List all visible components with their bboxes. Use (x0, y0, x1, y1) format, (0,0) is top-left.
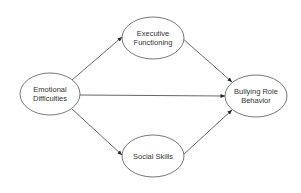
node-bullying: Bullying RoleBehavior (225, 75, 287, 117)
arrow-emotional-to-executive (72, 37, 122, 80)
node-label: Executive (137, 29, 170, 38)
node-label: Functioning (134, 38, 173, 47)
arrow-emotional-to-bullying (80, 95, 225, 96)
node-label: Social Skills (133, 152, 173, 161)
node-label: Bullying Role (234, 87, 278, 96)
node-label: Emotional (33, 85, 67, 94)
arrow-emotional-to-social (72, 109, 122, 155)
node-emotional: EmotionalDifficulties (20, 73, 80, 115)
path-diagram: EmotionalDifficultiesExecutiveFunctionin… (0, 0, 301, 193)
arrow-social-to-bullying (183, 110, 232, 155)
node-social: Social Skills (122, 135, 184, 177)
node-executive: ExecutiveFunctioning (122, 17, 184, 59)
node-label: Difficulties (33, 94, 67, 103)
nodes-layer: EmotionalDifficultiesExecutiveFunctionin… (20, 17, 287, 177)
node-label: Behavior (241, 96, 271, 105)
arrow-executive-to-bullying (182, 38, 232, 82)
